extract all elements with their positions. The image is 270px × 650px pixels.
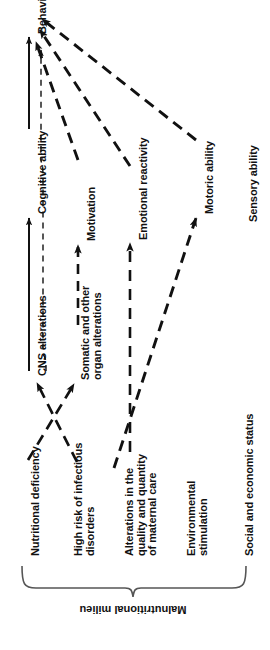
milieu-infection-line2: disorders — [85, 443, 97, 556]
figure-canvas: Behavior Cognitive ability Motivation Em… — [0, 0, 270, 650]
milieu-item-nutritional-deficiency[interactable]: Nutritional deficiency — [30, 446, 42, 556]
node-motoric-ability[interactable]: Motoric ability — [204, 141, 216, 214]
edge-environment-to-motoric — [114, 218, 196, 468]
milieu-item-maternal-care[interactable]: Alterations in the quality and quantity … — [124, 454, 159, 556]
milieu-item-environmental-stimulation[interactable]: Environmental stimulation — [186, 481, 209, 556]
milieu-brace — [22, 566, 246, 597]
node-emotional-reactivity[interactable]: Emotional reactivity — [138, 137, 150, 240]
milieu-maternal-line1: Alterations in the — [124, 454, 136, 556]
node-behavior[interactable]: Behavior — [37, 0, 49, 34]
milieu-item-infectious-disorders[interactable]: High risk of infectious disorders — [73, 443, 96, 556]
edge-infection-to-cns — [37, 383, 77, 462]
milieu-environment-line1: Environmental — [186, 481, 198, 556]
node-cognitive-ability[interactable]: Cognitive ability — [37, 131, 49, 214]
node-somatic-line2: organ alterations — [92, 286, 104, 380]
node-somatic-line1: Somatic and other — [80, 286, 92, 380]
edge-emotional-to-behavior — [40, 30, 130, 166]
node-somatic-organ-alterations[interactable]: Somatic and other organ alterations — [80, 286, 103, 380]
node-motivation[interactable]: Motivation — [86, 187, 98, 241]
milieu-infection-line1: High risk of infectious — [73, 443, 85, 556]
node-sensory-ability[interactable]: Sensory ability — [248, 145, 260, 222]
milieu-bracket-label: Malnutritional milieu — [53, 604, 213, 616]
milieu-item-social-economic-status[interactable]: Social and economic status — [244, 414, 256, 556]
node-cns-alterations[interactable]: CNS alterations — [37, 296, 49, 376]
milieu-environment-line2: stimulation — [198, 481, 210, 556]
milieu-maternal-line3: of maternal care — [147, 454, 159, 556]
